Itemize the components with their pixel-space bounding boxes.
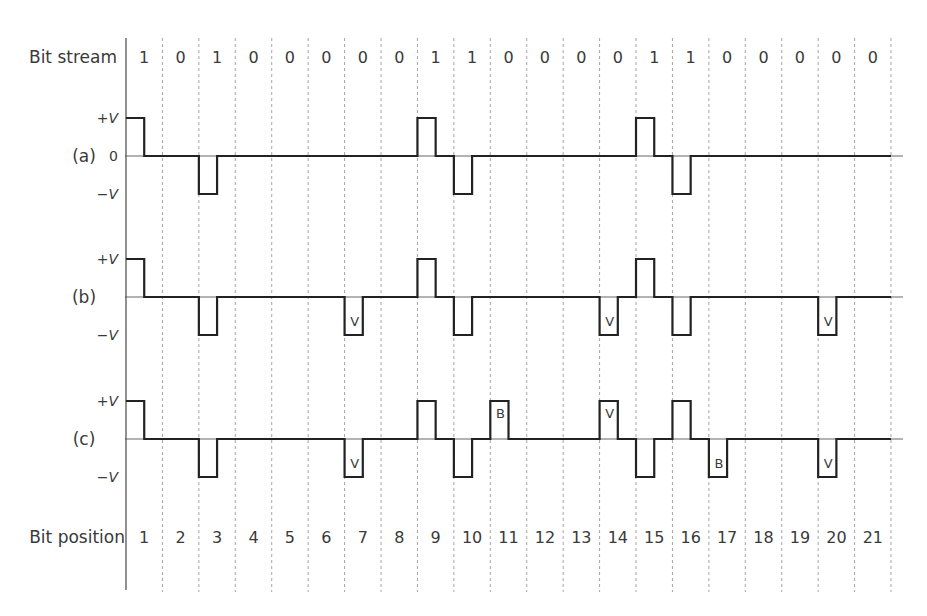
bit-value: 1 xyxy=(467,48,477,67)
minus-v-label: −V xyxy=(97,186,120,202)
violation-mark: V xyxy=(350,314,359,329)
bit-position-number: 8 xyxy=(394,528,404,547)
bit-stream-label: Bit stream xyxy=(29,47,117,67)
bit-position-number: 10 xyxy=(462,528,482,547)
row-label: (b) xyxy=(72,287,96,307)
bit-value: 0 xyxy=(176,48,186,67)
bit-value: 0 xyxy=(868,48,878,67)
bipolar-mark: B xyxy=(715,456,724,471)
bit-position-number: 4 xyxy=(248,528,258,547)
bit-position-number: 13 xyxy=(571,528,591,547)
bit-position-number: 21 xyxy=(863,528,883,547)
bit-position-number: 15 xyxy=(644,528,664,547)
bit-position-number: 9 xyxy=(431,528,441,547)
waveform-rows: (a)+V−V0(b)+V−VVVV(c)+V−VVBVBV xyxy=(72,110,903,485)
minus-v-label: −V xyxy=(97,327,120,343)
bit-position-number: 2 xyxy=(176,528,186,547)
waveform-row-b: (b)+V−VVVV xyxy=(72,251,903,343)
waveform-row-c: (c)+V−VVBVBV xyxy=(73,393,903,485)
bit-value: 0 xyxy=(758,48,768,67)
violation-mark: V xyxy=(824,456,833,471)
bit-value: 1 xyxy=(431,48,441,67)
bit-value: 0 xyxy=(576,48,586,67)
waveform-row-a: (a)+V−V0 xyxy=(72,110,903,202)
bit-position-number: 7 xyxy=(358,528,368,547)
row-label: (a) xyxy=(72,146,96,166)
row-label: (c) xyxy=(73,429,96,449)
bit-position-number: 1 xyxy=(139,528,149,547)
bit-value: 0 xyxy=(795,48,805,67)
bit-position-number: 18 xyxy=(753,528,773,547)
bit-stream-values: 101000001100001100000 xyxy=(139,48,878,67)
bipolar-mark: B xyxy=(496,406,505,421)
bit-value: 0 xyxy=(285,48,295,67)
bit-position-number: 17 xyxy=(717,528,737,547)
bit-value: 0 xyxy=(394,48,404,67)
waveform-signal xyxy=(126,118,891,194)
bit-position-number: 12 xyxy=(535,528,555,547)
bit-value: 0 xyxy=(831,48,841,67)
violation-mark: V xyxy=(605,406,614,421)
bit-value: 0 xyxy=(722,48,732,67)
bit-value: 0 xyxy=(540,48,550,67)
waveform-signal xyxy=(126,259,891,335)
bit-position-number: 6 xyxy=(321,528,331,547)
waveform-diagram: Bit stream Bit position 1010000011000011… xyxy=(0,0,927,616)
bit-value: 0 xyxy=(503,48,513,67)
line-coding-figure: Bit stream Bit position 1010000011000011… xyxy=(0,0,927,616)
zero-label: 0 xyxy=(109,148,118,164)
bit-value: 0 xyxy=(321,48,331,67)
bit-position-number: 11 xyxy=(498,528,518,547)
bit-value: 0 xyxy=(613,48,623,67)
bit-position-values: 123456789101112131415161718192021 xyxy=(139,528,883,547)
plus-v-label: +V xyxy=(97,393,120,409)
bit-boundary-gridlines xyxy=(162,38,891,592)
violation-mark: V xyxy=(824,314,833,329)
bit-value: 0 xyxy=(358,48,368,67)
bit-value: 1 xyxy=(139,48,149,67)
bit-position-number: 5 xyxy=(285,528,295,547)
bit-position-number: 19 xyxy=(790,528,810,547)
violation-mark: V xyxy=(605,314,614,329)
violation-mark: V xyxy=(350,456,359,471)
plus-v-label: +V xyxy=(97,110,120,126)
plus-v-label: +V xyxy=(97,251,120,267)
bit-position-number: 20 xyxy=(826,528,846,547)
bit-value: 1 xyxy=(212,48,222,67)
bit-value: 1 xyxy=(649,48,659,67)
bit-value: 0 xyxy=(248,48,258,67)
waveform-signal xyxy=(126,401,891,477)
bit-position-number: 14 xyxy=(608,528,628,547)
bit-value: 1 xyxy=(686,48,696,67)
minus-v-label: −V xyxy=(97,469,120,485)
bit-position-label: Bit position xyxy=(29,527,125,547)
bit-position-number: 3 xyxy=(212,528,222,547)
bit-position-number: 16 xyxy=(680,528,700,547)
